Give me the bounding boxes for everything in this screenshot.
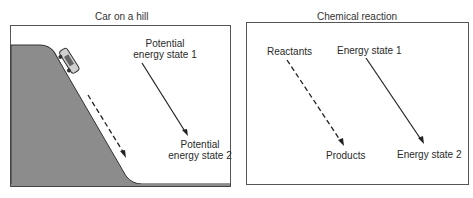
state1-line1: Potential <box>130 38 200 49</box>
state1-line2: energy state 1 <box>130 49 200 60</box>
potential-energy-state-1-label: Potential energy state 1 <box>130 38 200 60</box>
energy-state-2-label: Energy state 2 <box>397 149 461 160</box>
potential-energy-state-2-label: Potential energy state 2 <box>164 139 236 161</box>
state2-line1: Potential <box>164 139 236 150</box>
right-panel-title: Chemical reaction <box>317 11 397 22</box>
left-diagram-graphics <box>0 0 473 198</box>
products-label: Products <box>326 150 365 161</box>
state2-line2: energy state 2 <box>164 150 236 161</box>
energy-state-1-label: Energy state 1 <box>337 45 401 56</box>
reactants-label: Reactants <box>267 46 312 57</box>
